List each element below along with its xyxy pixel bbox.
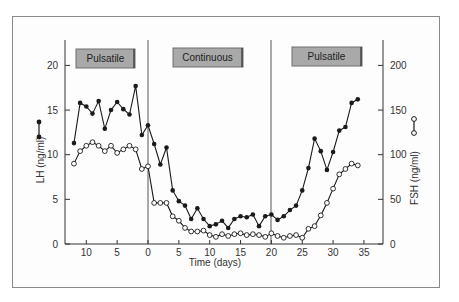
lh-data-point [177, 199, 182, 204]
fsh-data-point [331, 186, 336, 191]
lh-data-point [263, 214, 268, 219]
fsh-data-point [84, 143, 89, 148]
lh-data-point [318, 149, 323, 154]
fsh-data-point [337, 172, 342, 177]
phase-label-text: Pulsatile [308, 51, 346, 62]
right-y-tick-label: 200 [390, 60, 407, 71]
lh-data-point [78, 101, 83, 106]
lh-data-point [226, 226, 231, 231]
fsh-legend-icon [412, 117, 417, 136]
fsh-data-point [78, 149, 83, 154]
lh-data-point [257, 224, 262, 229]
lh-data-point [269, 212, 274, 217]
x-tick-label: 10 [81, 247, 93, 258]
phase-label-text: Continuous [182, 52, 233, 63]
fsh-data-point [288, 234, 293, 239]
lh-data-point [152, 142, 157, 147]
fsh-data-point [269, 231, 274, 236]
left-y-tick-label: 10 [47, 149, 59, 160]
fsh-data-point [263, 234, 268, 239]
fsh-data-point [306, 226, 311, 231]
lh-data-point [84, 104, 89, 109]
lh-data-point [170, 188, 175, 193]
fsh-data-point [170, 214, 175, 219]
lh-data-point [158, 162, 163, 167]
lh-data-point [109, 108, 114, 113]
left-y-tick-label: 20 [47, 60, 59, 71]
right-y-axis-title: FSH (ng/ml) [409, 151, 420, 205]
lh-data-point [189, 217, 194, 222]
lh-data-point [195, 206, 200, 211]
right-y-tick-label: 100 [390, 149, 407, 160]
fsh-data-point [139, 167, 144, 172]
lh-data-point [325, 168, 330, 173]
fsh-data-point [121, 147, 126, 152]
axes [65, 40, 383, 244]
lh-data-point [275, 218, 280, 223]
fsh-data-point [189, 229, 194, 234]
left-y-tick-label: 0 [52, 239, 58, 250]
fsh-data-point [176, 218, 181, 223]
right-y-tick-label: 0 [390, 239, 396, 250]
right-y-tick-label: 150 [390, 105, 407, 116]
phase-label-pulsatile-2: Pulsatile [292, 47, 362, 66]
lh-data-point [207, 224, 212, 229]
left-y-tick-label: 15 [47, 105, 59, 116]
fsh-data-point [349, 161, 354, 166]
fsh-data-point [343, 167, 348, 172]
fsh-data-point [238, 231, 243, 236]
lh-data-point [294, 203, 299, 208]
fsh-data-point [127, 143, 132, 148]
fsh-data-point [109, 143, 114, 148]
fsh-data-point [257, 233, 262, 238]
lh-series [72, 84, 360, 231]
x-tick-label: 5 [176, 247, 182, 258]
lh-data-point [115, 100, 120, 105]
lh-data-point [96, 99, 101, 104]
lh-data-point [244, 215, 249, 220]
fsh-data-point [201, 228, 206, 233]
lh-data-point [232, 217, 237, 222]
fsh-data-point [244, 233, 249, 238]
fsh-data-point [281, 235, 286, 240]
lh-data-point [238, 214, 243, 219]
lh-data-point [90, 111, 95, 116]
lh-data-point [133, 84, 138, 89]
left-y-axis-title: LH (ng/ml) [35, 137, 46, 184]
lh-data-point [164, 145, 169, 150]
fsh-data-point [195, 229, 200, 234]
x-tick-label: 5 [114, 247, 120, 258]
lh-data-point [140, 133, 145, 138]
phase-label-continuous: Continuous [173, 48, 243, 67]
fsh-data-point [325, 201, 330, 206]
lh-data-point [220, 218, 225, 223]
lh-data-point [312, 136, 317, 141]
hormone-chart: 1050510152025303505101520050100150200 Pu… [0, 0, 459, 302]
lh-data-point [300, 188, 305, 193]
fsh-data-point [164, 201, 169, 206]
fsh-data-point [250, 232, 255, 237]
fsh-data-point [115, 151, 120, 156]
fsh-data-point [133, 147, 138, 152]
fsh-data-point [355, 163, 360, 168]
lh-data-point [72, 141, 77, 146]
phase-label-text: Pulsatile [87, 53, 125, 64]
x-tick-label: 0 [145, 247, 151, 258]
fsh-data-point [183, 226, 188, 231]
lh-data-point [127, 112, 132, 117]
lh-data-point [281, 214, 286, 219]
fsh-data-point [220, 232, 225, 237]
lh-data-point [288, 208, 293, 213]
lh-data-point [337, 128, 342, 133]
lh-data-point [146, 123, 151, 128]
fsh-data-point [226, 234, 231, 239]
fsh-data-point [300, 235, 305, 240]
fsh-data-point [152, 201, 157, 206]
lh-legend-icon [37, 120, 42, 140]
fsh-data-point [207, 233, 212, 238]
left-y-tick-label: 5 [52, 194, 58, 205]
fsh-data-point [72, 161, 77, 166]
fsh-data-point [275, 234, 280, 239]
lh-data-point [306, 166, 311, 171]
lh-data-point [201, 217, 206, 222]
